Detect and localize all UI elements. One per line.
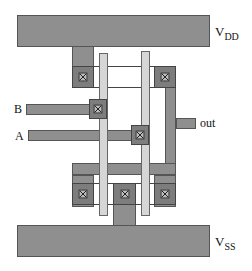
- output-metal-vertical: [165, 85, 176, 170]
- vdd-label: VDD: [215, 26, 239, 43]
- output-stub: [176, 118, 196, 129]
- contact-gate-a: [131, 125, 149, 145]
- contact-x-icon: [79, 73, 88, 82]
- contact-x-icon: [136, 131, 145, 140]
- contact-nmos-left: [72, 183, 94, 205]
- vdd-label-sub: DD: [224, 31, 238, 42]
- contact-x-icon: [161, 190, 170, 199]
- contact-nmos-right: [154, 183, 176, 205]
- contact-x-icon: [161, 73, 170, 82]
- input-b-line: [26, 104, 92, 115]
- vdd-label-main: V: [215, 24, 224, 39]
- contact-x-icon: [79, 190, 88, 199]
- vss-label-sub: SS: [224, 241, 235, 252]
- output-label: out: [200, 117, 215, 129]
- poly-gate-b: [99, 53, 108, 216]
- vss-label-main: V: [215, 234, 224, 249]
- input-a-label: A: [15, 130, 24, 142]
- input-b-label: B: [14, 103, 22, 115]
- vdd-rail: [17, 15, 210, 47]
- contact-gate-b: [89, 99, 107, 119]
- contact-pmos-left: [72, 66, 94, 88]
- output-metal-horizontal: [72, 163, 176, 175]
- vss-rail: [17, 225, 210, 257]
- contact-pmos-right: [154, 66, 176, 88]
- input-a-line: [28, 130, 134, 141]
- vss-label: VSS: [215, 236, 236, 253]
- contact-x-icon: [120, 190, 129, 199]
- contact-x-icon: [94, 105, 103, 114]
- contact-nmos-center: [113, 183, 136, 205]
